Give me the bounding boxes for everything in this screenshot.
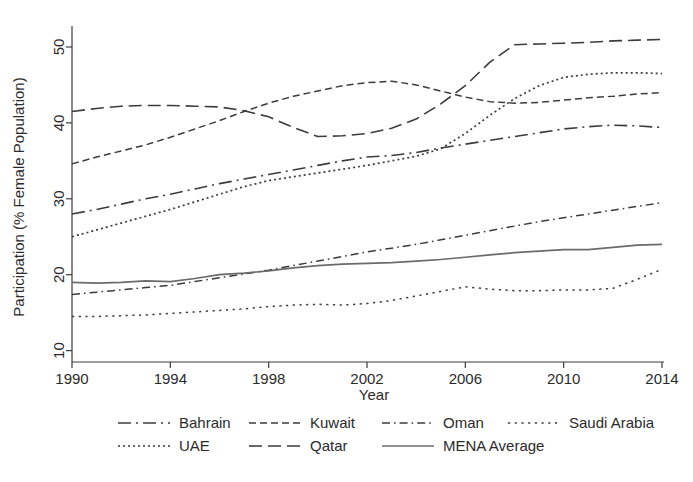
line-chart: 1020304050 1990199419982002200620102014 … (0, 0, 693, 482)
legend-label-qatar[interactable]: Qatar (310, 437, 348, 454)
legend-label-kuwait[interactable]: Kuwait (310, 414, 356, 431)
chart-background (0, 0, 693, 482)
y-tick-label-10: 10 (50, 342, 67, 359)
y-tick-label-50: 50 (50, 39, 67, 56)
legend-label-uae[interactable]: UAE (179, 437, 210, 454)
legend-label-oman[interactable]: Oman (443, 414, 484, 431)
chart-figure: 1020304050 1990199419982002200620102014 … (0, 0, 693, 482)
legend-label-saudi-arabia[interactable]: Saudi Arabia (569, 414, 655, 431)
legend-label-mena-average[interactable]: MENA Average (443, 437, 544, 454)
x-tick-label-1998: 1998 (252, 370, 285, 387)
x-axis-title: Year (359, 386, 389, 403)
y-tick-label-40: 40 (50, 115, 67, 132)
x-tick-label-1990: 1990 (55, 370, 88, 387)
x-tick-label-2002: 2002 (350, 370, 383, 387)
legend-label-bahrain[interactable]: Bahrain (179, 414, 231, 431)
y-tick-label-20: 20 (50, 266, 67, 283)
x-tick-label-2006: 2006 (449, 370, 482, 387)
y-axis-title: Participation (% Female Population) (10, 77, 27, 316)
x-tick-label-1994: 1994 (154, 370, 187, 387)
x-tick-label-2014: 2014 (645, 370, 678, 387)
x-tick-label-2010: 2010 (547, 370, 580, 387)
y-tick-label-30: 30 (50, 190, 67, 207)
